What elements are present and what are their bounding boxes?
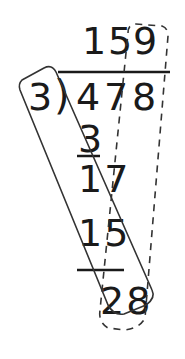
solid-outline-loop [19, 67, 153, 315]
dashed-outline-loop [100, 24, 168, 330]
long-division-diagram: 1 5 9 3 ) 4 7 8 3 17 15 28 [0, 0, 185, 359]
division-lines-overlay [0, 0, 185, 359]
